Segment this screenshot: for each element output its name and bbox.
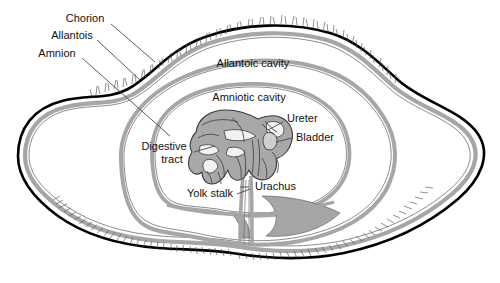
label-chorion: Chorion	[66, 12, 105, 24]
label-digestive-tract-line2: tract	[161, 153, 182, 165]
label-digestive-tract-line1: Digestive	[141, 140, 186, 152]
label-yolk-stalk: Yolk stalk	[187, 187, 234, 199]
label-allantoic-cavity: Allantoic cavity	[217, 57, 290, 69]
label-amniotic-cavity: Amniotic cavity	[212, 91, 286, 103]
label-ureter: Ureter	[287, 112, 318, 124]
leader-allantois	[97, 40, 140, 80]
label-allantois: Allantois	[51, 29, 93, 41]
embryo-body	[188, 110, 292, 184]
diagram-canvas: Chorion Allantois Amnion Allantoic cavit…	[0, 0, 500, 283]
label-urachus: Urachus	[255, 180, 296, 192]
leader-chorion	[111, 24, 155, 62]
label-bladder: Bladder	[296, 131, 334, 143]
fetal-membranes-diagram: Chorion Allantois Amnion Allantoic cavit…	[0, 0, 500, 283]
bladder-shape	[263, 132, 277, 150]
label-amnion: Amnion	[38, 47, 75, 59]
